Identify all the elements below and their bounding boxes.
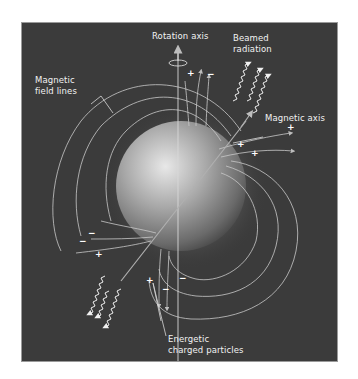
- pulsar-diagram-panel: Rotation axis Beamed radiation Magnetic …: [21, 22, 338, 362]
- charge-top-minus: −: [207, 70, 215, 79]
- charge-left-minus-1: −: [88, 229, 96, 238]
- label-energetic-particles-line1: Energetic: [168, 334, 209, 344]
- label-rotation-axis: Rotation axis: [152, 31, 209, 41]
- pulsar-diagram-svg: [22, 23, 338, 362]
- charge-bottom-minus-1: −: [162, 285, 170, 294]
- label-beamed-radiation-line1: Beamed: [233, 33, 269, 43]
- neutron-star: [116, 121, 246, 251]
- charge-left-minus-2: −: [79, 237, 87, 246]
- charge-left-plus: +: [95, 250, 103, 259]
- label-energetic-particles-line2: charged particles: [168, 345, 244, 355]
- charge-bottom-plus: +: [146, 276, 154, 285]
- charge-right-plus-3: +: [251, 149, 259, 158]
- charge-right-plus-2: +: [237, 140, 245, 149]
- label-beamed-radiation-line2: radiation: [233, 44, 272, 54]
- beamed-radiation-lower: [89, 276, 121, 327]
- beamed-radiation-upper: [233, 63, 269, 113]
- charge-bottom-minus-2: −: [179, 274, 187, 283]
- label-magnetic-field-lines-line2: field lines: [35, 86, 77, 96]
- label-magnetic-axis: Magnetic axis: [265, 113, 325, 123]
- magnetic-axis-arrow: [241, 113, 251, 127]
- charge-right-plus-1: +: [287, 123, 295, 132]
- label-magnetic-field-lines-line1: Magnetic: [35, 75, 75, 85]
- charge-top-plus: +: [187, 69, 195, 78]
